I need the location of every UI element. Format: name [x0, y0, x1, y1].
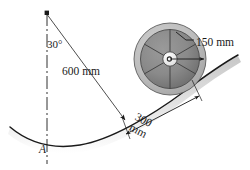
angle-label: 30° — [47, 39, 62, 51]
point-a-label: A — [39, 143, 46, 155]
figure-canvas: 30° 600 mm 150 mm 300 mm A — [0, 0, 250, 170]
track-shadow — [8, 56, 241, 153]
wheel-radius-label: 150 mm — [196, 36, 234, 48]
arc-center-marker — [45, 11, 49, 15]
diagram-svg — [0, 0, 250, 170]
arc-radius-label: 600 mm — [62, 65, 100, 77]
